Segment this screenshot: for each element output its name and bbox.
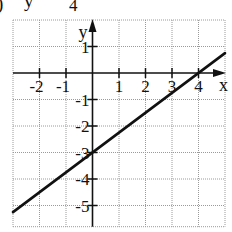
x-tick-label: 4 xyxy=(194,77,203,96)
y-axis-label: y xyxy=(79,22,88,42)
line-chart: -2-112341-1-2-3-4-5xy xyxy=(0,0,232,232)
x-axis-label: x xyxy=(219,75,228,95)
x-tick-label: -1 xyxy=(56,77,70,96)
y-tick-label: -1 xyxy=(75,91,89,110)
x-tick-label: 2 xyxy=(141,77,150,96)
y-tick-label: -2 xyxy=(75,117,89,136)
y-tick-label: -5 xyxy=(75,197,89,216)
y-tick-label: -3 xyxy=(75,144,89,163)
y-tick-label: -4 xyxy=(75,170,90,189)
grid xyxy=(13,20,225,227)
x-tick-label: 3 xyxy=(168,77,177,96)
x-tick-label: 1 xyxy=(115,77,124,96)
y-axis-arrow-icon xyxy=(89,19,97,32)
x-tick-label: -2 xyxy=(29,77,43,96)
